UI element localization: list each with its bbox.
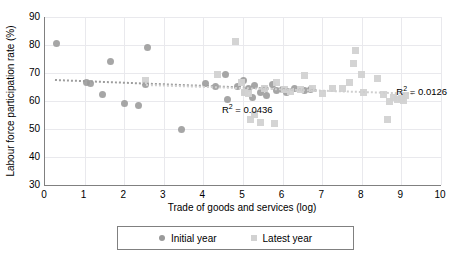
x-tick-label: 6 [270,190,294,200]
y-axis-tick-labels: 90807060504030 [8,17,40,185]
data-point-circle [53,40,60,47]
r2-label-latest: R2 = 0.0126 [396,85,447,97]
scatter-chart: Labour force participation rate (%) 9080… [0,0,471,258]
data-point-square [346,79,353,86]
y-tick-label: 90 [10,12,40,22]
y-tick-label: 80 [10,40,40,50]
x-tick-label: 1 [72,190,96,200]
x-tick-label: 5 [230,190,254,200]
legend-item-initial-year[interactable]: Initial year [159,233,217,244]
data-point-square [271,120,278,127]
gridline-horizontal [45,45,441,46]
data-point-square [247,116,254,123]
data-point-circle [263,92,270,99]
x-tick-label: 0 [32,190,56,200]
data-point-square [245,90,252,97]
x-tick-label: 7 [309,190,333,200]
trendline [146,84,413,95]
data-point-square [273,79,280,86]
gridline-vertical [441,17,442,185]
y-tick-label: 60 [10,96,40,106]
data-point-circle [135,102,142,109]
chart-legend: Initial year Latest year [117,226,354,250]
x-tick-label: 8 [349,190,373,200]
r2-initial-base: R [222,104,229,115]
x-tick-label: 3 [151,190,175,200]
data-point-circle [249,94,256,101]
y-tick-label: 70 [10,68,40,78]
data-point-square [384,116,391,123]
x-tick-label: 4 [190,190,214,200]
r2-latest-value: = 0.0126 [407,87,447,98]
square-marker-icon [251,235,257,241]
gridline-horizontal [45,73,441,74]
x-tick-label: 9 [388,190,412,200]
gridline-horizontal [45,17,441,18]
y-tick-label: 30 [10,180,40,190]
r2-initial-value: = 0.0436 [233,104,273,115]
legend-item-latest-year[interactable]: Latest year [251,233,312,244]
x-axis-title: Trade of goods and services (log) [44,203,440,213]
circle-marker-icon [159,235,165,241]
gridline-horizontal [45,101,441,102]
gridline-horizontal [45,157,441,158]
data-point-square [374,75,381,82]
data-point-square [352,47,359,54]
r2-label-initial: R2 = 0.0436 [222,103,273,115]
x-tick-label: 10 [428,190,452,200]
y-tick-label: 40 [10,152,40,162]
data-point-circle [99,91,106,98]
data-point-circle [107,58,114,65]
data-point-square [257,119,264,126]
y-tick-label: 50 [10,124,40,134]
data-point-square [214,71,221,78]
plot-area [44,17,441,186]
x-tick-label: 2 [111,190,135,200]
legend-label-latest-year: Latest year [263,233,312,244]
gridline-horizontal [45,129,441,130]
legend-label-initial-year: Initial year [171,233,217,244]
data-point-square [350,60,357,67]
data-point-square [232,38,239,45]
